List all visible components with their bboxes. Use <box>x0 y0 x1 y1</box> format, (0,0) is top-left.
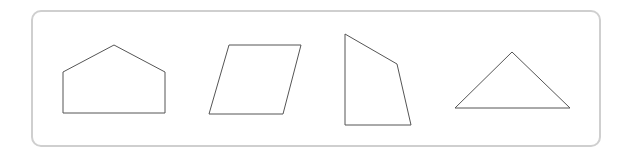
parallelogram-shape <box>209 45 301 114</box>
shapes-canvas <box>0 0 629 153</box>
quadrilateral-shape <box>345 34 411 125</box>
triangle-shape <box>455 52 570 108</box>
pentagon-shape <box>63 45 165 113</box>
